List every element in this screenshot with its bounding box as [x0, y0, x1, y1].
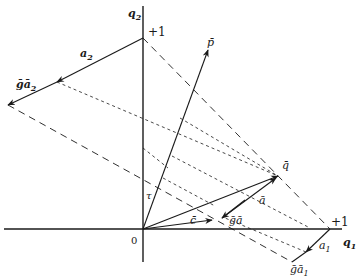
diagram-canvas: q2 q1 +1 +1 0 a2 ḡā2 p̄ q̄ ā c̄ ḡā τ a1 … [0, 0, 364, 277]
vector-p [143, 50, 208, 229]
q2-axis-label: q2 [128, 7, 142, 22]
a1-label: a1 [319, 239, 331, 254]
vector-a2 [57, 38, 143, 82]
a2-label: a2 [80, 47, 93, 62]
q1-axis-label: q1 [343, 236, 356, 251]
p-label: p̄ [207, 36, 214, 49]
c-label: c̄ [190, 214, 197, 227]
labels: q2 q1 +1 +1 0 a2 ḡā2 p̄ q̄ ā c̄ ḡā τ a1 … [16, 7, 356, 277]
unit-q1-label: +1 [331, 215, 349, 229]
q-label: q̄ [282, 159, 289, 172]
vector-q [143, 176, 278, 229]
a-label: ā [259, 194, 266, 207]
ga2-label: ḡā2 [16, 78, 37, 93]
projection-line-tau [163, 178, 215, 206]
edge-ga2-end-to-ga1-point [8, 105, 292, 262]
ga1-label: ḡā1 [290, 263, 309, 277]
vector-ga1 [292, 252, 306, 262]
projection-line-p-to-q [180, 118, 278, 176]
origin-label: 0 [131, 235, 137, 246]
unit-q2-label: +1 [148, 25, 166, 39]
axes [4, 6, 342, 262]
projection-line-left-p [143, 148, 168, 168]
ga-label: ḡā [229, 214, 243, 227]
short-dashed-lines [57, 82, 310, 252]
edge-unit-q2-to-unit-q1 [143, 38, 330, 229]
tau-label: τ [146, 190, 152, 201]
